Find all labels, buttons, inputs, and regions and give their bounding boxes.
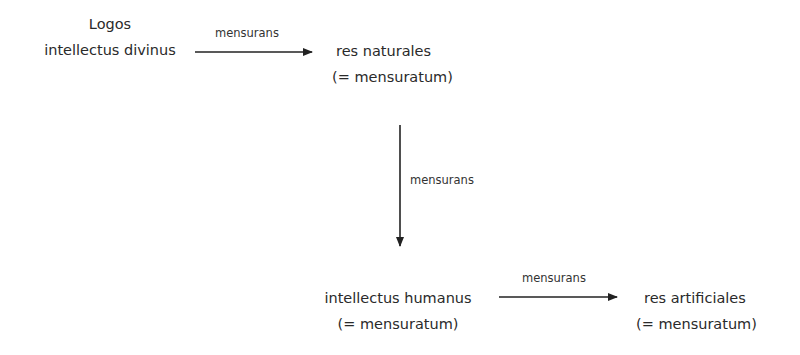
node-logos-line2: intellectus divinus xyxy=(30,37,190,63)
node-logos: Logos intellectus divinus xyxy=(30,11,190,63)
node-res-naturales: res naturales (= mensuratum) xyxy=(334,38,453,90)
edge-label-3: mensurans xyxy=(522,271,586,285)
node-res-naturales-line2: (= mensuratum) xyxy=(332,64,453,90)
node-res-artificiales-line1: res artificiales xyxy=(636,285,757,311)
edge-label-1: mensurans xyxy=(215,26,279,40)
node-res-artificiales: res artificiales (= mensuratum) xyxy=(636,285,757,337)
edge-label-2: mensurans xyxy=(410,173,474,187)
node-intellectus-humanus: intellectus humanus (= mensuratum) xyxy=(318,285,478,337)
node-res-artificiales-line2: (= mensuratum) xyxy=(636,311,757,337)
node-intellectus-humanus-line2: (= mensuratum) xyxy=(318,311,478,337)
node-res-naturales-line1: res naturales xyxy=(334,38,453,64)
node-intellectus-humanus-line1: intellectus humanus xyxy=(318,285,478,311)
node-logos-line1: Logos xyxy=(30,11,190,37)
